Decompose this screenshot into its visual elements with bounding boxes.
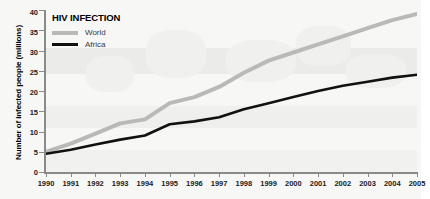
x-tick bbox=[318, 172, 319, 177]
x-tick bbox=[46, 172, 47, 177]
x-tick bbox=[194, 172, 195, 177]
legend-title: HIV INFECTION bbox=[52, 12, 170, 23]
y-tick bbox=[39, 71, 44, 72]
y-tick bbox=[39, 30, 44, 31]
x-tick bbox=[219, 172, 220, 177]
y-tick bbox=[39, 172, 44, 173]
series-line-africa bbox=[46, 75, 417, 154]
x-tick bbox=[293, 172, 294, 177]
y-tick bbox=[39, 51, 44, 52]
y-tick-label: 15 bbox=[4, 109, 38, 117]
x-tick bbox=[170, 172, 171, 177]
y-tick bbox=[39, 132, 44, 133]
y-tick-label: 30 bbox=[4, 49, 38, 57]
y-tick bbox=[39, 111, 44, 112]
y-tick-label: 5 bbox=[4, 149, 38, 157]
legend-entry-world: World bbox=[50, 27, 170, 38]
legend-swatch-world-icon bbox=[52, 31, 78, 35]
y-tick bbox=[39, 152, 44, 153]
y-axis-tick-labels: 40 35 30 25 20 15 10 5 0 bbox=[0, 0, 38, 199]
y-tick-label: 35 bbox=[4, 29, 38, 37]
x-tick bbox=[120, 172, 121, 177]
x-tick bbox=[368, 172, 369, 177]
x-tick bbox=[145, 172, 146, 177]
x-tick bbox=[392, 172, 393, 177]
legend: HIV INFECTION World Africa bbox=[50, 12, 170, 51]
legend-swatch-africa-icon bbox=[52, 43, 78, 47]
x-tick bbox=[417, 172, 418, 177]
x-tick bbox=[71, 172, 72, 177]
x-axis-line bbox=[44, 172, 418, 174]
y-tick-label: 20 bbox=[4, 89, 38, 97]
y-tick-label: 25 bbox=[4, 69, 38, 77]
y-tick-label: 10 bbox=[4, 129, 38, 137]
y-tick-label: 40 bbox=[4, 9, 38, 17]
legend-label-africa: Africa bbox=[85, 41, 105, 49]
legend-entry-africa: Africa bbox=[50, 39, 170, 50]
y-tick bbox=[39, 91, 44, 92]
x-tick bbox=[95, 172, 96, 177]
y-tick-label: 0 bbox=[4, 169, 38, 177]
x-tick bbox=[244, 172, 245, 177]
x-tick bbox=[269, 172, 270, 177]
x-tick bbox=[343, 172, 344, 177]
x-tick-label: 2005 bbox=[402, 180, 430, 188]
legend-label-world: World bbox=[85, 29, 106, 37]
y-tick bbox=[39, 10, 44, 11]
